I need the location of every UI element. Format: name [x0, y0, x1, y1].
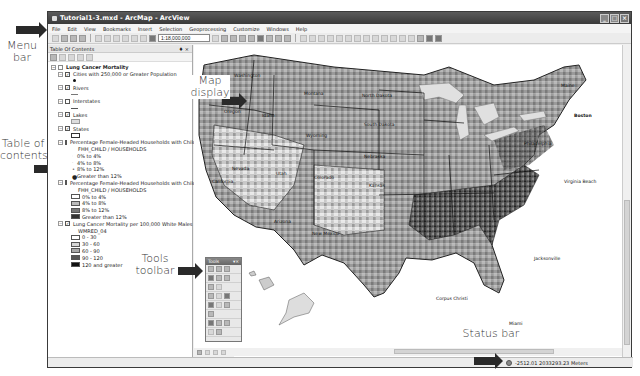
clear-selection-icon[interactable] [216, 293, 222, 299]
maximize-button[interactable]: □ [610, 14, 619, 23]
menu-windows[interactable]: Windows [266, 26, 288, 32]
collapse-icon[interactable]: − [58, 72, 63, 77]
model-builder-icon[interactable] [275, 35, 282, 42]
map-display[interactable]: Washington Montana North Dakota Oregon I… [194, 45, 622, 358]
layer-row-interstates[interactable]: − Interstates [48, 98, 192, 105]
layer-row-states[interactable]: − ✓ States [48, 125, 192, 132]
fixed-zoom-in-icon[interactable] [216, 275, 222, 281]
close-button[interactable]: × [620, 14, 629, 23]
tool-icon[interactable] [417, 35, 424, 42]
go-to-xy-icon[interactable] [224, 320, 230, 326]
paste-icon[interactable] [113, 35, 120, 42]
layer-checkbox[interactable]: ✓ [65, 85, 70, 90]
layer-row-lung-cancer[interactable]: − ✓ Lung Cancer Mortality per 100,000 Wh… [48, 220, 192, 227]
menu-selection[interactable]: Selection [159, 26, 182, 32]
layer-row-lakes[interactable]: − ✓ Lakes [48, 112, 192, 119]
tool-icon[interactable] [309, 35, 316, 42]
arctoolbox-icon[interactable] [257, 35, 264, 42]
toc-window-icon[interactable] [230, 35, 237, 42]
fixed-zoom-out-icon[interactable] [224, 275, 230, 281]
collapse-icon[interactable]: − [58, 180, 63, 185]
search-window-icon[interactable] [248, 35, 255, 42]
layer-row-fhh-points[interactable]: − Percentage Female-Headed Households wi… [48, 139, 192, 146]
data-view-icon[interactable] [197, 350, 202, 355]
scale-dropdown-icon[interactable] [212, 35, 219, 42]
layer-checkbox[interactable]: ✓ [65, 221, 70, 226]
tool-icon[interactable] [381, 35, 388, 42]
data-frame-row[interactable]: − Lung Cancer Mortality [48, 64, 192, 71]
collapse-icon[interactable]: − [58, 112, 63, 117]
cut-icon[interactable] [95, 35, 102, 42]
menu-insert[interactable]: Insert [138, 26, 152, 32]
measure-icon[interactable] [208, 311, 214, 317]
map-horizontal-scrollbar[interactable] [194, 348, 622, 356]
close-icon[interactable]: ▾× [233, 259, 241, 264]
list-by-selection-icon[interactable] [77, 54, 84, 61]
pause-drawing-icon[interactable] [221, 350, 226, 355]
zoom-out-icon[interactable] [216, 266, 222, 272]
collapse-icon[interactable]: − [58, 221, 63, 226]
tool-icon[interactable] [390, 35, 397, 42]
options-icon[interactable] [86, 54, 93, 61]
save-icon[interactable] [70, 35, 77, 42]
tool-icon[interactable] [399, 35, 406, 42]
delete-icon[interactable] [122, 35, 129, 42]
whats-this-icon[interactable] [284, 35, 291, 42]
layer-row-rivers[interactable]: − ✓ Rivers [48, 84, 192, 91]
tool-icon[interactable] [327, 35, 334, 42]
map-vertical-scrollbar[interactable] [622, 45, 631, 358]
menu-help[interactable]: Help [296, 26, 307, 32]
time-slider-icon[interactable] [208, 329, 214, 335]
pan-hand-icon[interactable] [224, 266, 230, 272]
html-popup-icon[interactable] [224, 302, 230, 308]
catalog-window-icon[interactable] [239, 35, 246, 42]
refresh-icon[interactable] [213, 350, 218, 355]
list-by-source-icon[interactable] [59, 54, 66, 61]
collapse-icon[interactable]: − [58, 85, 63, 90]
python-window-icon[interactable] [266, 35, 273, 42]
menu-customize[interactable]: Customize [233, 26, 259, 32]
redo-icon[interactable] [140, 35, 147, 42]
undo-icon[interactable] [131, 35, 138, 42]
map-scale-input[interactable] [158, 34, 210, 42]
print-icon[interactable] [79, 35, 86, 42]
menu-view[interactable]: View [84, 26, 96, 32]
scrollbar-thumb[interactable] [394, 349, 554, 354]
layer-checkbox[interactable]: ✓ [65, 112, 70, 117]
tool-icon[interactable] [318, 35, 325, 42]
layer-checkbox[interactable] [65, 99, 70, 104]
layer-checkbox[interactable]: ✓ [65, 72, 70, 77]
toc-pin-close-icons[interactable]: ♦ × [179, 46, 192, 52]
tool-icon[interactable] [372, 35, 379, 42]
tool-icon[interactable] [426, 35, 433, 42]
viewer-window-icon[interactable] [216, 329, 222, 335]
copy-icon[interactable] [104, 35, 111, 42]
tool-icon[interactable] [336, 35, 343, 42]
collapse-icon[interactable]: − [51, 65, 56, 70]
full-extent-icon[interactable] [208, 275, 214, 281]
tool-icon[interactable] [300, 35, 307, 42]
new-document-icon[interactable] [52, 35, 59, 42]
layout-view-icon[interactable] [205, 350, 210, 355]
scrollbar-thumb[interactable] [624, 200, 630, 345]
menu-geoprocessing[interactable]: Geoprocessing [189, 26, 226, 32]
tool-icon[interactable] [345, 35, 352, 42]
collapse-icon[interactable]: − [58, 126, 63, 131]
zoom-in-icon[interactable] [208, 266, 214, 272]
find-route-icon[interactable] [216, 320, 222, 326]
tool-icon[interactable] [408, 35, 415, 42]
layer-checkbox[interactable] [65, 180, 67, 185]
tool-icon[interactable] [363, 35, 370, 42]
tool-icon[interactable] [354, 35, 361, 42]
layer-checkbox[interactable]: ✓ [65, 126, 70, 131]
list-by-drawing-order-icon[interactable] [50, 54, 57, 61]
open-icon[interactable] [61, 35, 68, 42]
collapse-icon[interactable]: − [58, 99, 63, 104]
hyperlink-icon[interactable] [216, 302, 222, 308]
menu-file[interactable]: File [52, 26, 60, 32]
layer-row-cities[interactable]: − ✓ Cities with 250,000 or Greater Popul… [48, 71, 192, 78]
collapse-icon[interactable]: − [58, 140, 63, 145]
minimize-button[interactable]: _ [600, 14, 609, 23]
editor-toolbar-icon[interactable] [221, 35, 228, 42]
list-by-visibility-icon[interactable] [68, 54, 75, 61]
